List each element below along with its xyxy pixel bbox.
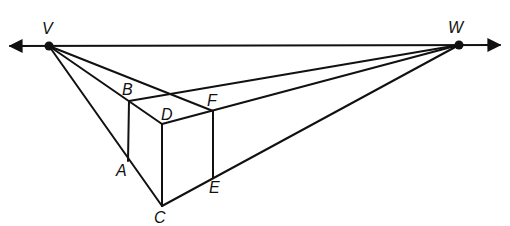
label-D: D: [161, 107, 173, 123]
line-W-D: [162, 45, 459, 124]
label-A: A: [116, 163, 127, 179]
line-V-C: [49, 46, 162, 206]
diagram-drawing: [0, 0, 510, 226]
label-F: F: [207, 93, 217, 109]
vanishing-point-V: [45, 42, 54, 51]
line-W-B: [129, 45, 459, 101]
vanishing-point-W: [455, 41, 464, 50]
label-B: B: [122, 82, 133, 98]
label-W: W: [448, 20, 463, 36]
label-C: C: [154, 210, 166, 226]
label-E: E: [209, 180, 220, 196]
horizon-line: [10, 45, 500, 46]
line-W-C: [162, 45, 459, 206]
label-V: V: [42, 21, 53, 37]
edge-BA: [128, 101, 129, 161]
perspective-diagram: V W B D F A C E: [0, 0, 510, 226]
